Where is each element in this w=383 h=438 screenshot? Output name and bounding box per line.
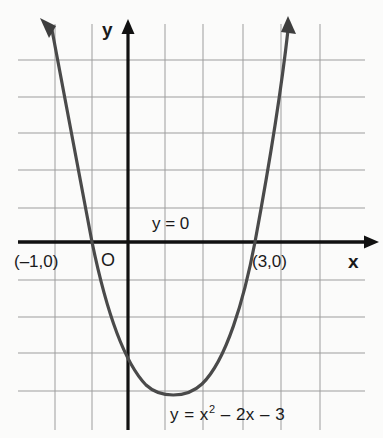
equation-exponent: 2: [209, 403, 216, 415]
horizontal-line-equation-label: y = 0: [152, 215, 189, 232]
x-axis-arrowhead: [364, 236, 379, 249]
grid-lines: [18, 24, 365, 430]
parabola-curve: [40, 16, 296, 395]
graph-figure: y x y = 0 (–1,0) O (3,0) y = x2 – 2x – 3: [0, 0, 383, 438]
left-root-label: (–1,0): [14, 253, 58, 270]
y-axis-arrowhead: [122, 19, 135, 34]
right-root-label: (3,0): [252, 253, 287, 270]
parabola-right-arrowhead: [281, 16, 296, 34]
equation-prefix: y = x: [170, 405, 209, 424]
x-axis: [18, 236, 379, 249]
graph-canvas: [0, 0, 383, 438]
parabola-equation-label: y = x2 – 2x – 3: [170, 404, 285, 423]
y-axis-label: y: [102, 20, 113, 39]
x-axis-label: x: [348, 252, 359, 271]
equation-suffix: – 2x – 3: [216, 405, 286, 424]
origin-label: O: [101, 251, 115, 269]
